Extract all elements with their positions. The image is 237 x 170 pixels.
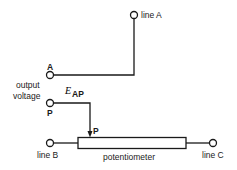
label-voltage: voltage	[13, 91, 41, 101]
label-line-c: line C	[202, 150, 224, 160]
terminal-line-b	[47, 140, 54, 147]
potentiometer-diagram: line A A output voltage E AP P P line B …	[0, 0, 237, 170]
wiper-arrow-icon	[88, 131, 93, 138]
wire-p	[54, 103, 91, 133]
label-line-a: line A	[141, 10, 162, 20]
terminal-p	[47, 100, 54, 107]
label-output: output	[16, 80, 40, 90]
potentiometer-body	[78, 138, 186, 149]
label-e-symbol: E	[64, 85, 71, 96]
label-e-subscript: AP	[72, 89, 84, 99]
terminal-line-c	[210, 140, 217, 147]
terminal-a	[47, 72, 54, 79]
label-potentiometer: potentiometer	[103, 152, 155, 162]
wire-a	[54, 19, 135, 76]
terminal-line-a	[131, 12, 138, 19]
label-a: A	[47, 62, 53, 72]
label-p: P	[47, 108, 53, 118]
label-wiper-p: P	[93, 126, 99, 136]
label-line-b: line B	[37, 150, 59, 160]
